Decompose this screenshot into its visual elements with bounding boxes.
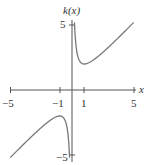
x-axis-label: x (139, 84, 144, 95)
y-axis-label: k(x) (63, 5, 80, 16)
x-tick-label-5: 5 (131, 98, 137, 109)
chart-plot (0, 0, 149, 165)
x-tick-label-1: 1 (81, 98, 87, 109)
y-tick-label-neg5: −5 (56, 152, 68, 163)
x-tick-label-neg5: −5 (2, 98, 14, 109)
x-tick-label-neg1: −1 (52, 98, 64, 109)
k-x-right-branch-curve (74, 22, 133, 64)
y-tick-label-5: 5 (60, 19, 66, 30)
